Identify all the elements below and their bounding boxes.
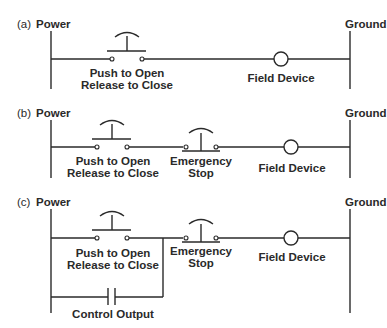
field-device-icon [284,231,298,245]
control-output-label: Control Output [72,308,154,320]
emergency-stop-nc-symbol [182,220,220,243]
field-device-label: Field Device [258,251,325,263]
ground-label: Ground [345,196,387,208]
ground-label: Ground [345,107,387,119]
ground-label: Ground [345,18,387,30]
panel-tag: (a) [17,18,31,30]
power-label: Power [36,107,71,119]
estop-label-2: Stop [188,257,214,269]
panel-a: (a) Power Ground Push to Open Release to… [17,18,387,91]
estop-label-1: Emergency [170,155,233,167]
emergency-stop-nc-symbol [182,129,220,152]
panel-tag: (c) [17,196,31,208]
field-device-label: Field Device [247,72,314,84]
field-device-icon [284,140,298,154]
field-device-label: Field Device [258,162,325,174]
control-output-contact-no-symbol [108,288,115,305]
power-label: Power [36,18,71,30]
pushbutton-label-2: Release to Close [67,167,159,179]
estop-label-1: Emergency [170,245,233,257]
pushbutton-nc-symbol [92,212,131,241]
pushbutton-nc-symbol [92,121,131,150]
pushbutton-label-2: Release to Close [67,259,159,271]
power-label: Power [36,196,71,208]
estop-label-2: Stop [188,167,214,179]
pushbutton-nc-symbol [107,33,146,62]
panel-b: (b) Power Ground Push to Open Release to… [17,107,387,179]
field-device-icon [274,52,288,66]
panel-tag: (b) [17,107,31,119]
pushbutton-label-1: Push to Open [90,67,165,79]
pushbutton-label-2: Release to Close [81,79,173,91]
pushbutton-label-1: Push to Open [76,155,151,167]
pushbutton-label-1: Push to Open [76,247,151,259]
panel-c: (c) Power Ground [17,196,387,320]
ladder-diagram: (a) Power Ground Push to Open Release to… [0,0,387,328]
